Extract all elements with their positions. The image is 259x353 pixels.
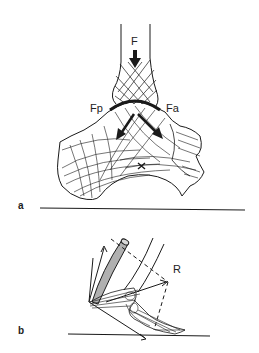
center-marker [138, 163, 145, 169]
dashed-parallelogram-top [111, 239, 168, 282]
label-R: R [173, 264, 181, 275]
vector-R [106, 282, 166, 302]
panel-b-drawing [68, 238, 210, 340]
panel-label-b: b [18, 326, 24, 336]
arrow-Fp-shaft [122, 114, 134, 132]
label-Fa: Fa [166, 103, 179, 114]
panel-a-force-arrows [116, 50, 163, 140]
foot-bone-lines [90, 290, 185, 332]
label-F: F [131, 36, 138, 47]
tibia-right-edge [150, 24, 158, 106]
arrow-Fa-shaft [138, 114, 156, 132]
ground-line-a [40, 208, 245, 210]
label-Fp: Fp [90, 103, 103, 114]
ankle-force-diagram [0, 0, 259, 353]
dashed-parallelogram-side [154, 282, 168, 330]
panel-label-a: a [18, 201, 24, 211]
tibia-left-edge [112, 24, 121, 104]
foot-bones-outline [58, 102, 205, 200]
